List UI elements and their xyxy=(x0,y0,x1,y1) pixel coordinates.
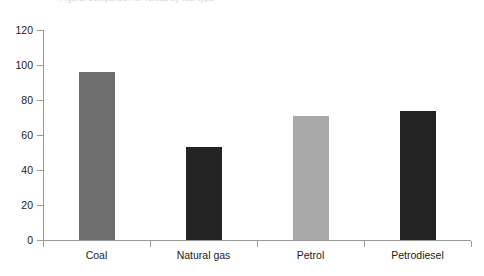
y-axis-tick xyxy=(37,170,43,171)
x-axis-tick xyxy=(150,241,151,247)
x-axis-tick xyxy=(257,241,258,247)
x-axis-tick xyxy=(364,241,365,247)
x-axis-tick xyxy=(471,241,472,247)
bar xyxy=(400,111,436,241)
y-axis-tick xyxy=(37,100,43,101)
x-axis-category-label: Natural gas xyxy=(150,250,257,261)
y-axis-line xyxy=(43,30,44,241)
y-axis-tick xyxy=(37,205,43,206)
y-axis-tick-label: 120 xyxy=(0,25,33,36)
bar-chart-figure: Figure: comparison of values by fuel typ… xyxy=(0,0,484,276)
x-axis-category-label: Petrol xyxy=(257,250,364,261)
y-axis-tick xyxy=(37,135,43,136)
plot-area: 020406080100120 CoalNatural gasPetrolPet… xyxy=(0,0,484,276)
y-axis-tick-label: 80 xyxy=(0,95,33,106)
x-axis-category-label: Petrodiesel xyxy=(364,250,471,261)
bar xyxy=(186,147,222,240)
y-axis-tick-label: 20 xyxy=(0,200,33,211)
y-axis-tick xyxy=(37,30,43,31)
y-axis-tick-label: 40 xyxy=(0,165,33,176)
x-axis-tick xyxy=(43,241,44,247)
bar xyxy=(293,116,329,240)
y-axis-tick xyxy=(37,65,43,66)
y-axis-tick-label: 60 xyxy=(0,130,33,141)
bar xyxy=(79,72,115,240)
y-axis-tick-label: 0 xyxy=(0,235,33,246)
y-axis-tick-label: 100 xyxy=(0,60,33,71)
x-axis-category-label: Coal xyxy=(43,250,150,261)
